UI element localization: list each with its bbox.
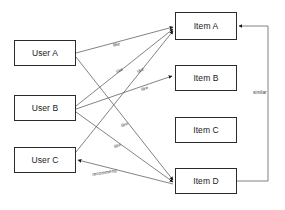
node-item-b[interactable]: Item B	[175, 65, 237, 91]
node-item-d-label: Item D	[193, 176, 219, 186]
edge-label-similar: similar	[253, 90, 267, 95]
edge-item-d-item-a	[237, 26, 268, 181]
node-user-a-label: User A	[32, 48, 58, 58]
edge-user-a-item-d	[76, 57, 173, 180]
node-user-b[interactable]: User B	[14, 95, 76, 121]
node-item-a-label: Item A	[194, 21, 219, 31]
node-item-c[interactable]: Item C	[175, 117, 237, 143]
node-item-c-label: Item C	[193, 125, 219, 135]
node-user-c-label: User C	[31, 155, 58, 165]
node-item-d[interactable]: Item D	[175, 168, 237, 194]
node-item-b-label: Item B	[193, 73, 218, 83]
node-item-a[interactable]: Item A	[175, 12, 237, 40]
node-user-a[interactable]: User A	[14, 40, 76, 66]
node-user-c[interactable]: User C	[14, 147, 76, 173]
diagram-canvas: User A User B User C Item A Item B Item …	[0, 0, 285, 210]
node-user-b-label: User B	[32, 103, 59, 113]
edge-user-b-item-a	[76, 29, 173, 106]
